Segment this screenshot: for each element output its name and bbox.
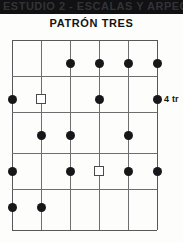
grid-horizontal-line-1 — [12, 40, 157, 41]
marker-filled-dot-13[interactable] — [66, 167, 75, 176]
marker-filled-dot-10[interactable] — [66, 131, 75, 140]
grid-vertical-line-6 — [157, 40, 158, 230]
marker-filled-dot-16[interactable] — [153, 167, 162, 176]
marker-filled-dot-17[interactable] — [8, 203, 17, 212]
grid-horizontal-line-5 — [12, 189, 157, 190]
marker-filled-dot-11[interactable] — [124, 131, 133, 140]
marker-filled-dot-12[interactable] — [8, 167, 17, 176]
marker-filled-dot-8[interactable] — [153, 95, 162, 104]
marker-filled-dot-3[interactable] — [124, 59, 133, 68]
grid-horizontal-line-4 — [12, 153, 157, 154]
marker-open-square-14[interactable] — [94, 166, 104, 176]
marker-filled-dot-7[interactable] — [95, 95, 104, 104]
grid-vertical-line-4 — [99, 40, 100, 230]
marker-filled-dot-18[interactable] — [37, 203, 46, 212]
fretboard-diagram: 4 tr — [0, 0, 183, 243]
side-annotation-1: 4 tr — [164, 94, 179, 104]
marker-open-square-6[interactable] — [36, 94, 46, 104]
page-root: ESTUDIO 2 - ESCALAS Y ARPEGIOS PATRÓN TR… — [0, 0, 183, 243]
grid-horizontal-line-6 — [12, 230, 157, 231]
marker-filled-dot-9[interactable] — [37, 131, 46, 140]
marker-filled-dot-1[interactable] — [66, 59, 75, 68]
marker-filled-dot-4[interactable] — [153, 59, 162, 68]
marker-filled-dot-5[interactable] — [8, 95, 17, 104]
grid-vertical-line-1 — [12, 40, 13, 230]
marker-filled-dot-2[interactable] — [95, 59, 104, 68]
grid-horizontal-line-2 — [12, 76, 157, 77]
marker-filled-dot-15[interactable] — [124, 167, 133, 176]
grid-horizontal-line-3 — [12, 112, 157, 113]
